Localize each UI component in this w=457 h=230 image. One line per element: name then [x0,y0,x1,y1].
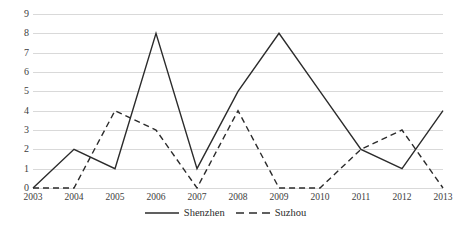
legend-label: Suzhou [275,207,307,219]
legend-label: Shenzhen [184,207,225,219]
y-axis-tick-label: 9 [3,9,29,19]
plot-area [33,14,443,188]
y-axis-tick-label: 6 [3,67,29,77]
x-axis-tick-label: 2011 [341,191,381,203]
x-axis-tick-label: 2007 [177,191,217,203]
x-axis-tick-label: 2013 [423,191,457,203]
legend-swatch-solid-line-icon [145,209,179,217]
x-axis-tick-label: 2010 [300,191,340,203]
y-axis-tick-label: 7 [3,48,29,58]
chart-legend: ShenzhenSuzhou [0,207,451,219]
y-axis-tick-label: 2 [3,144,29,154]
x-axis-tick-label: 2012 [382,191,422,203]
x-axis: 2003200420052006200720082009201020112012… [33,191,443,205]
legend-swatch-dashed-line-icon [236,209,270,217]
y-axis-tick-label: 3 [3,125,29,135]
y-axis-tick-label: 8 [3,28,29,38]
y-axis-tick-label: 1 [3,164,29,174]
y-axis-tick-label: 4 [3,106,29,116]
series-line-suzhou [33,111,443,188]
legend-item-shenzhen[interactable]: Shenzhen [145,207,225,219]
gridline [33,188,443,189]
y-axis-tick-label: 5 [3,86,29,96]
x-axis-tick-label: 2004 [54,191,94,203]
y-axis: 0123456789 [0,14,29,188]
legend-item-suzhou[interactable]: Suzhou [236,207,307,219]
x-axis-tick-label: 2009 [259,191,299,203]
series-layer [33,14,443,188]
x-axis-tick-label: 2003 [13,191,53,203]
x-axis-tick-label: 2006 [136,191,176,203]
x-axis-tick-label: 2008 [218,191,258,203]
x-axis-tick-label: 2005 [95,191,135,203]
